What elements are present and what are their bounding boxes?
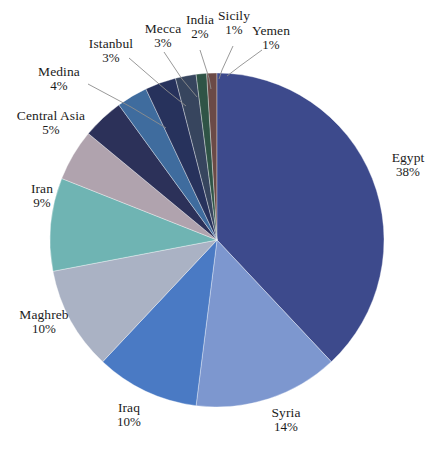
- slice-label-iran: Iran 9%: [20, 181, 64, 211]
- slice-label-central-asia-name: Central Asia: [6, 108, 96, 123]
- slice-label-sicily-name: Sicily: [212, 8, 256, 23]
- slice-label-iran-percent: 9%: [20, 196, 64, 211]
- slice-label-egypt-name: Egypt: [383, 150, 433, 165]
- slice-label-medina-name: Medina: [28, 64, 90, 79]
- pie-slices-group: [50, 73, 384, 407]
- slice-label-iraq: Iraq 10%: [103, 400, 155, 430]
- slice-label-yemen-name: Yemen: [242, 23, 300, 38]
- slice-label-syria-name: Syria: [257, 405, 315, 420]
- slice-label-iraq-name: Iraq: [103, 400, 155, 415]
- slice-label-maghreb-percent: 10%: [8, 322, 80, 337]
- slice-label-maghreb-name: Maghreb: [8, 307, 80, 322]
- slice-label-iraq-percent: 10%: [103, 415, 155, 430]
- slice-label-medina-percent: 4%: [28, 79, 90, 94]
- slice-label-medina: Medina 4%: [28, 64, 90, 94]
- slice-label-egypt: Egypt 38%: [383, 150, 433, 180]
- slice-label-egypt-percent: 38%: [383, 165, 433, 180]
- slice-label-istanbul: Istanbul 3%: [80, 36, 142, 66]
- slice-label-central-asia: Central Asia 5%: [6, 108, 96, 138]
- slice-label-yemen-percent: 1%: [242, 38, 300, 53]
- slice-label-syria-percent: 14%: [257, 420, 315, 435]
- pie-chart: Egypt 38% Syria 14% Iraq 10% Maghreb 10%…: [0, 0, 436, 460]
- leader-line-yemen: [227, 50, 262, 76]
- slice-label-maghreb: Maghreb 10%: [8, 307, 80, 337]
- slice-label-yemen: Yemen 1%: [242, 23, 300, 53]
- slice-label-iran-name: Iran: [20, 181, 64, 196]
- slice-label-central-asia-percent: 5%: [6, 123, 96, 138]
- slice-label-istanbul-name: Istanbul: [80, 36, 142, 51]
- slice-label-istanbul-percent: 3%: [80, 51, 142, 66]
- slice-label-syria: Syria 14%: [257, 405, 315, 435]
